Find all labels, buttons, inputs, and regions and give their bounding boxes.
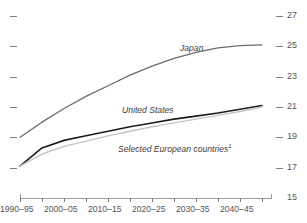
y-axis-tick-label: 21 (287, 102, 297, 111)
series-label-united-states: United States (122, 106, 174, 115)
y-axis-tick-label: 23 (287, 72, 297, 81)
series-label-japan: Japan (180, 44, 203, 53)
x-axis-tick-label: 2010–15 (88, 205, 121, 214)
y-axis-tick-label: 25 (287, 41, 297, 50)
x-axis-tick-label: 2020–25 (132, 205, 165, 214)
y-axis-tick-label: 17 (287, 163, 297, 172)
y-axis-tick-label: 19 (287, 132, 297, 141)
footnote-marker: 1 (228, 143, 231, 149)
x-axis-tick-label: 2040–45 (220, 205, 253, 214)
series-line-selected-european-countries (20, 107, 262, 166)
series-label-selected-european-countries: Selected European countries1 (118, 143, 232, 153)
x-axis-tick-label: 1990–95 (0, 205, 33, 214)
series-line-japan (20, 45, 262, 138)
chart-container: 15171921232527 1990–952000–052010–152020… (0, 0, 307, 223)
x-axis-tick-label: 2030–35 (176, 205, 209, 214)
y-axis-tick-label: 15 (287, 193, 297, 202)
x-axis-tick-label: 2000–05 (44, 205, 77, 214)
y-axis-tick-label: 27 (287, 11, 297, 20)
